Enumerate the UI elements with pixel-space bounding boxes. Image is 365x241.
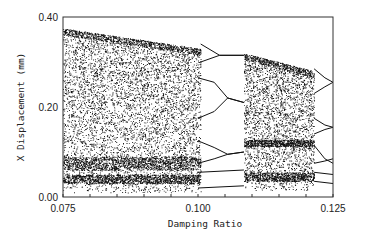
bifurcation-chart: 0.0750.1000.125 0.000.200.40 Damping Rat…: [0, 0, 365, 241]
svg-text:0.20: 0.20: [39, 102, 59, 113]
svg-text:0.100: 0.100: [185, 203, 210, 214]
x-axis-label: Damping Ratio: [168, 218, 243, 229]
svg-text:0.125: 0.125: [320, 203, 345, 214]
svg-text:0.40: 0.40: [39, 12, 59, 23]
y-axis-ticks: 0.000.200.40: [39, 12, 59, 203]
svg-text:0.075: 0.075: [50, 203, 75, 214]
svg-text:0.00: 0.00: [39, 192, 59, 203]
scatter-points: [63, 29, 315, 193]
y-axis-label: X Displacement (mm): [15, 53, 26, 162]
